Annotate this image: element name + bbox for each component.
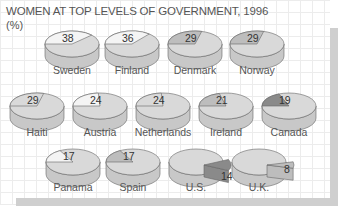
panel-shadow-right [330, 28, 338, 205]
chart-unit: (%) [6, 19, 23, 31]
pie-value: 24 [90, 94, 102, 106]
pie-value: 17 [123, 150, 135, 162]
pie-label: Norway [217, 64, 297, 76]
pie-value: 29 [27, 94, 39, 106]
pie-value: 36 [122, 32, 134, 44]
pie-value: 29 [247, 32, 259, 44]
pie-label: U.K. [219, 181, 299, 193]
pie-value: 8 [284, 163, 290, 175]
pie-value: 19 [279, 94, 291, 106]
pie-value: 17 [63, 150, 75, 162]
chart-title: WOMEN AT TOP LEVELS OF GOVERNMENT, 1996 [6, 5, 268, 17]
pie-value: 24 [153, 94, 165, 106]
panel-shadow-bottom [16, 198, 338, 206]
pie-label: Canada [249, 126, 329, 138]
pie-value: 21 [216, 94, 228, 106]
pie-value: 38 [62, 32, 74, 44]
pie-value: 29 [185, 32, 197, 44]
